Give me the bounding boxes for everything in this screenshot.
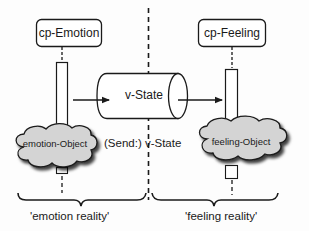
feeling-reality-label: 'feeling reality' (185, 210, 257, 222)
send-v-state-label: (Send:) v-State (104, 137, 181, 149)
cp-feeling-label: cp-Feeling (199, 26, 265, 40)
feeling-lifeline-end (226, 166, 238, 179)
emotion-object-label: emotion-Object (18, 138, 92, 149)
feeling-object-label: feeling-Object (202, 136, 280, 147)
v-state-label: v-State (116, 88, 172, 102)
cp-emotion-label: cp-Emotion (38, 26, 100, 40)
emotion-lifeline-end (57, 168, 68, 174)
emotion-reality-label: 'emotion reality' (30, 210, 109, 222)
emotion-reality-brace (18, 193, 146, 206)
feeling-reality-brace (152, 193, 278, 206)
